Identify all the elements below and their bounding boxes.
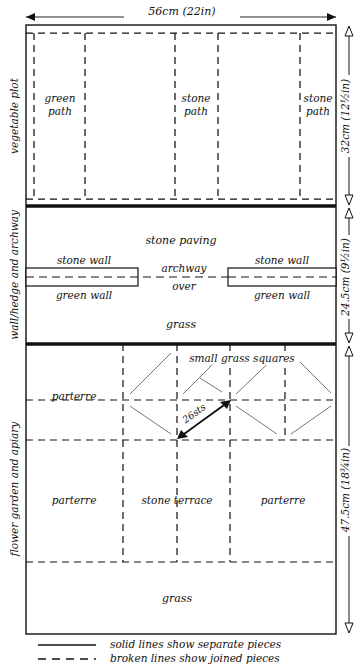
flower-garden-grass-label: grass — [162, 592, 193, 605]
stone-wall-left-label: stone wall — [57, 254, 111, 266]
green-path-label-line2: path — [48, 105, 72, 117]
green-wall-left-label: green wall — [56, 289, 112, 301]
vegetable-plot-height-label: 32cm (12½in) — [339, 79, 351, 153]
parterre-top-label: parterre — [52, 390, 97, 402]
width-dimension-label: 56cm (22in) — [148, 5, 215, 18]
green-wall-right-label: green wall — [254, 289, 310, 301]
stone-wall-right-label: stone wall — [255, 254, 309, 266]
stone-path-right-label-line2: path — [306, 105, 330, 117]
parterre-right-label: parterre — [261, 494, 306, 506]
wall-band-height-label: 24.5cm (9½in) — [339, 238, 351, 317]
section-label-flower-garden-apiary: flower garden and apiary — [8, 421, 20, 558]
stone-path-center-label-line2: path — [184, 105, 208, 117]
stone-path-right-label-line1: stone — [304, 92, 333, 104]
archway-label-line2: over — [172, 280, 196, 292]
section-label-wall-hedge-archway: wall/hedge and archway — [8, 209, 20, 340]
stone-paving-label: stone paving — [145, 234, 216, 247]
section-label-vegetable-plot: vegetable plot — [8, 77, 20, 154]
small-grass-squares-label: small grass squares — [189, 352, 295, 364]
parterre-left-label: parterre — [52, 494, 97, 506]
archway-label-line1: archway — [161, 262, 207, 274]
garden-plan-diagram: 56cm (22in) green path stone path stone … — [0, 0, 364, 667]
stone-terrace-label: stone terrace — [141, 494, 212, 506]
flower-garden-height-label: 47.5cm (18¾in) — [339, 448, 351, 533]
stone-path-center-label-line1: stone — [182, 92, 211, 104]
legend-broken-text: broken lines show joined pieces — [110, 652, 280, 664]
green-path-label-line1: green — [45, 92, 76, 104]
wall-band-grass-label: grass — [166, 318, 197, 331]
legend-solid-text: solid lines show separate pieces — [110, 638, 282, 650]
section-labels-left: vegetable plot wall/hedge and archway fl… — [8, 77, 20, 557]
